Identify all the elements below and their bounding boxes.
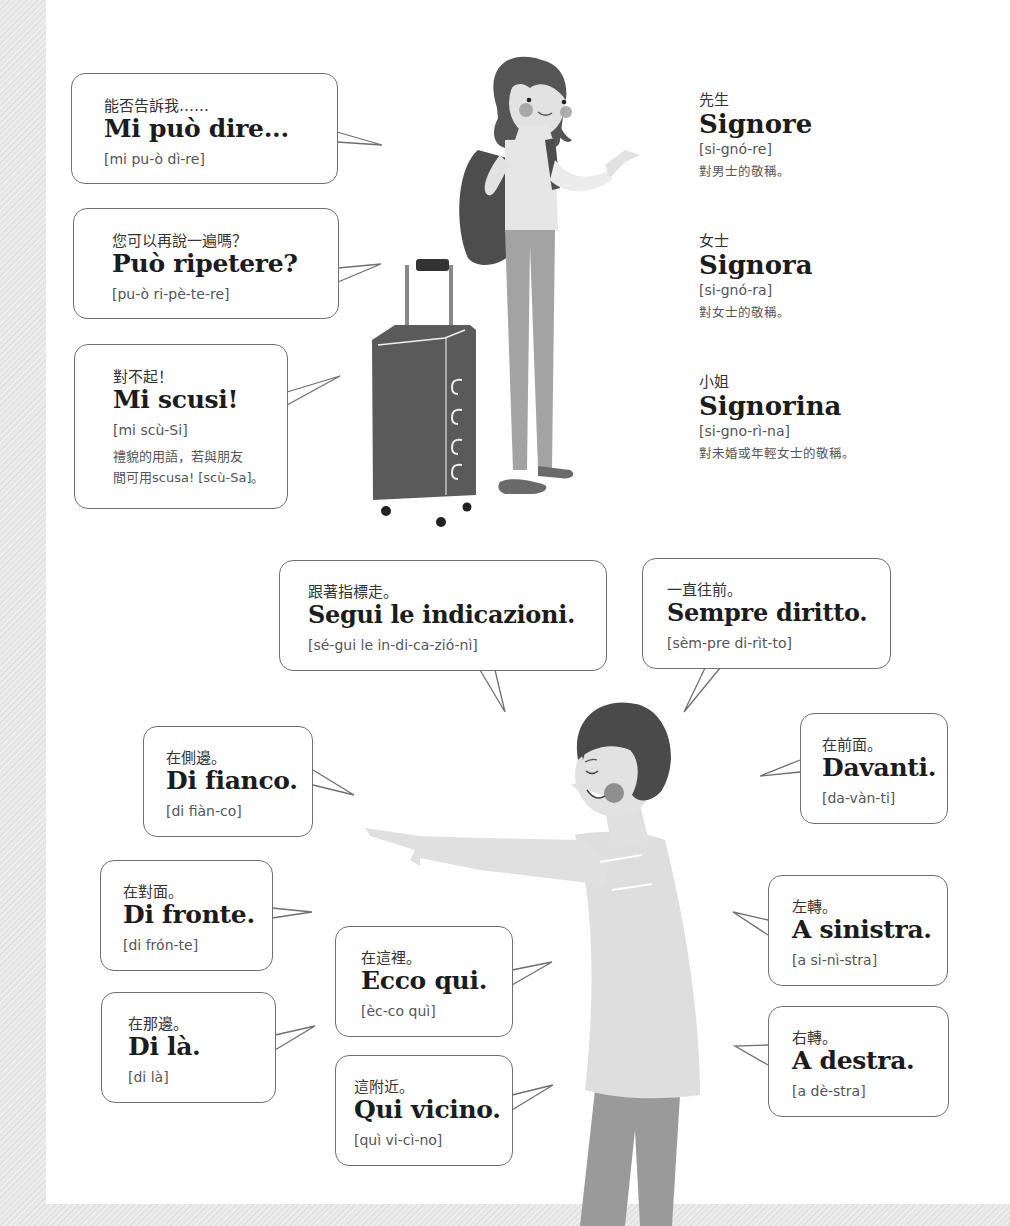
pronunciation: [di là] [128,1069,169,1085]
bubble-a-destra: 右轉。 A destra. [a dè-stra] [768,1006,949,1117]
chinese-translation: 在那邊。 [128,1012,188,1033]
chinese-translation: 先生 [699,88,812,109]
italian-phrase: A sinistra. [792,915,932,944]
italian-phrase: Di là. [128,1032,200,1061]
pronunciation: [si-gno-rì-na] [699,423,855,439]
pronunciation: [mi pu-ò dì-re] [104,151,205,167]
chinese-translation: 小姐 [699,370,855,391]
chinese-translation: 在對面。 [123,880,183,901]
pronunciation: [èc-co quì] [361,1003,436,1019]
pronunciation: [sé-gui le in-di-ca-zió-nì] [308,637,478,653]
pronunciation: [a dè-stra] [792,1083,866,1099]
italian-term: Signora [699,250,813,280]
pronunciation: [mi scù-Si] [113,422,188,438]
chinese-translation: 這附近。 [354,1075,414,1096]
italian-phrase: Segui le indicazioni. [308,600,575,629]
usage-note: 對男士的敬稱。 [699,161,812,180]
chinese-translation: 能否告訴我…… [104,94,209,115]
chinese-translation: 右轉。 [792,1026,837,1047]
bubble-puo-ripetere: 您可以再說一遍嗎？ Può ripetere? [pu-ò ri-pè-te-r… [73,208,339,319]
term-signora: 女士 Signora [si-gnó-ra] 對女士的敬稱。 [699,229,813,321]
bubble-a-sinistra: 左轉。 A sinistra. [a si-nì-stra] [768,875,948,986]
italian-phrase: Davanti. [822,753,936,782]
usage-note: 對女士的敬稱。 [699,302,813,321]
italian-phrase: Di fronte. [123,900,255,929]
bubble-qui-vicino: 這附近。 Qui vicino. [quì vi-cì-no] [335,1055,513,1166]
chinese-translation: 女士 [699,229,813,250]
pronunciation: [di frón-te] [123,937,198,953]
chinese-translation: 對不起！ [113,365,173,386]
term-signorina: 小姐 Signorina [si-gno-rì-na] 對未婚或年輕女士的敬稱。 [699,370,855,462]
italian-term: Signore [699,109,812,139]
pronunciation: [a si-nì-stra] [792,952,877,968]
italian-term: Signorina [699,391,855,421]
chinese-translation: 在前面。 [822,733,882,754]
bubble-davanti: 在前面。 Davanti. [da-vàn-ti] [800,713,948,824]
bubble-ecco-qui: 在這裡。 Ecco qui. [èc-co quì] [335,926,513,1037]
usage-note-line1: 禮貌的用語，若與朋友 [113,446,243,467]
chinese-translation: 在側邊。 [166,746,226,767]
pronunciation: [si-gnó-ra] [699,282,813,298]
bubble-di-la: 在那邊。 Di là. [di là] [101,992,276,1103]
bubble-di-fianco: 在側邊。 Di fianco. [di fiàn-co] [143,726,313,837]
italian-phrase: Mi scusi! [113,385,238,414]
italian-phrase: Può ripetere? [112,249,298,278]
pronunciation: [da-vàn-ti] [822,790,895,806]
bubble-di-fronte: 在對面。 Di fronte. [di frón-te] [100,860,273,971]
chinese-translation: 您可以再說一遍嗎？ [112,229,247,250]
usage-note-line2: 間可用scusa! [scù-Sa]。 [113,467,264,488]
italian-phrase: Di fianco. [166,766,298,795]
italian-phrase: Mi può dire... [104,114,289,143]
italian-phrase: Sempre diritto. [667,598,867,627]
pronunciation: [pu-ò ri-pè-te-re] [112,286,229,302]
chinese-translation: 一直往前。 [667,578,742,599]
chinese-translation: 在這裡。 [361,946,421,967]
bubble-segui-le-indicazioni: 跟著指標走。 Segui le indicazioni. [sé-gui le … [279,560,607,671]
bubble-mi-puo-dire: 能否告訴我…… Mi può dire... [mi pu-ò dì-re] [71,73,338,184]
chinese-translation: 跟著指標走。 [308,580,398,601]
bubble-mi-scusi: 對不起！ Mi scusi! [mi scù-Si] 禮貌的用語，若與朋友 間可… [74,344,288,509]
italian-phrase: Qui vicino. [354,1095,501,1124]
usage-note: 對未婚或年輕女士的敬稱。 [699,443,855,462]
bubble-sempre-diritto: 一直往前。 Sempre diritto. [sèm-pre di-rìt-to… [642,558,891,669]
pronunciation: [sèm-pre di-rìt-to] [667,635,792,651]
pronunciation: [di fiàn-co] [166,803,242,819]
term-signore: 先生 Signore [si-gnó-re] 對男士的敬稱。 [699,88,812,180]
pronunciation: [si-gnó-re] [699,141,812,157]
chinese-translation: 左轉。 [792,895,837,916]
pronunciation: [quì vi-cì-no] [354,1132,442,1148]
italian-phrase: A destra. [792,1046,914,1075]
italian-phrase: Ecco qui. [361,966,487,995]
